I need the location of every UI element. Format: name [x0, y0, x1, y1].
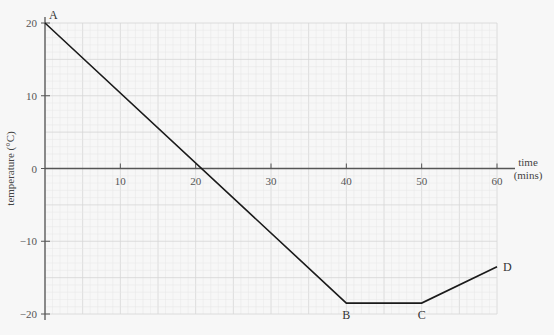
point-label-b: B	[342, 308, 350, 322]
labels: ABCDtime(mins)temperature (°C)	[4, 8, 543, 322]
y-tick-label: 10	[26, 90, 38, 102]
y-tick-label: 20	[26, 17, 38, 29]
x-tick-label: 30	[266, 175, 278, 187]
y-axis-title: temperature (°C)	[4, 131, 17, 206]
y-tick-label: −10	[20, 235, 38, 247]
x-tick-label: 50	[416, 175, 428, 187]
x-tick-label: 40	[341, 175, 353, 187]
x-tick-label: 20	[190, 175, 202, 187]
x-axis-title-line1: time	[518, 156, 538, 168]
temperature-time-chart: 20100−10−20102030405060 ABCDtime(mins)te…	[0, 0, 554, 335]
x-axis-title-line2: (mins)	[514, 169, 543, 182]
x-tick-label: 10	[115, 175, 127, 187]
point-label-d: D	[503, 260, 512, 274]
y-tick-label: −20	[20, 308, 38, 320]
y-tick-label: 0	[32, 163, 38, 175]
point-label-c: C	[418, 308, 426, 322]
point-label-a: A	[49, 8, 58, 22]
axes: 20100−10−20102030405060	[20, 17, 515, 320]
x-tick-label: 60	[492, 175, 504, 187]
